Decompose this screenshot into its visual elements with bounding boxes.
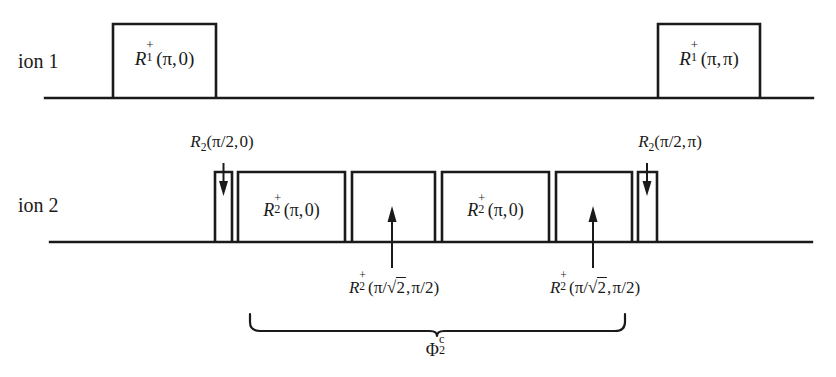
- radicand: 2: [395, 277, 406, 297]
- up-arrow-second-head: [589, 206, 598, 222]
- ann-comma: ,: [234, 132, 238, 151]
- label-comma: ,: [717, 48, 722, 69]
- phi-sub: 2: [439, 343, 445, 358]
- row-label-ion1: ion 1: [18, 50, 59, 73]
- annotation-r2-pi2-0: R2(π/2, 0): [190, 133, 254, 153]
- label-close-paren: ): [518, 200, 524, 220]
- ann-R: R: [349, 278, 359, 297]
- label-R: R: [679, 48, 691, 69]
- ann-comma: ,: [682, 132, 686, 151]
- pulse-label-r2-plus-pi-0-second: R+2(π, 0): [467, 198, 523, 219]
- annotation-r2-plus-sqrt2-first: R+2(π/√2, π/2): [349, 276, 439, 296]
- label-comma: ,: [299, 200, 304, 220]
- ann-phase-den: 2: [626, 278, 635, 297]
- ann-R: R: [638, 132, 648, 151]
- ann-sqrt: √2: [588, 279, 607, 296]
- label-R: R: [135, 48, 147, 69]
- down-arrow-right-head: [643, 181, 652, 196]
- down-arrow-left-head: [219, 181, 228, 196]
- phi-supsub: c2: [439, 338, 448, 356]
- ann-comma: ,: [607, 278, 611, 297]
- ann-supsub: +2: [560, 276, 569, 293]
- label-supsub: +1: [691, 46, 701, 65]
- ann-phase-den: 2: [425, 278, 434, 297]
- label-comma: ,: [172, 48, 177, 69]
- ann-two: 2: [673, 132, 682, 151]
- label-pi: π: [163, 48, 173, 69]
- pulse-sequence-figure: ion 1 ion 2 R+1(π, 0) R+1(π, π) R+2(π, 0…: [0, 0, 836, 377]
- phi-symbol: Φ: [426, 340, 439, 360]
- pulse-label-r1-pi-0: R+1(π, 0): [135, 46, 195, 68]
- ann-two: 2: [225, 132, 234, 151]
- label-close-paren: ): [733, 48, 739, 69]
- label-R: R: [263, 200, 274, 220]
- label-pi-1: π: [707, 48, 717, 69]
- phi-brace-graphic: [250, 314, 625, 336]
- label-comma: ,: [503, 200, 508, 220]
- ann-close-paren: ): [634, 278, 640, 297]
- row-label-ion2: ion 2: [18, 194, 59, 217]
- up-arrow-first-head: [388, 206, 397, 222]
- pulse-box-r2-plus-sqrt2-first: [352, 172, 435, 242]
- pulse-label-r1-pi-pi: R+1(π, π): [679, 46, 739, 68]
- label-supsub: +2: [478, 198, 487, 216]
- annotation-r2-pi2-pi: R2(π/2, π): [638, 133, 702, 153]
- ann-close-paren: ): [696, 132, 702, 151]
- radicand: 2: [596, 277, 607, 297]
- ann-phase: 0: [240, 132, 249, 151]
- ann-close-paren: ): [248, 132, 254, 151]
- ann-phase: π: [688, 132, 697, 151]
- ann-R: R: [550, 278, 560, 297]
- ann-R: R: [190, 132, 200, 151]
- pulse-label-r2-plus-pi-0-first: R+2(π, 0): [263, 198, 319, 219]
- label-close-paren: ): [314, 200, 320, 220]
- annotation-r2-plus-sqrt2-second: R+2(π/√2, π/2): [550, 276, 640, 296]
- label-close-paren: ): [188, 48, 194, 69]
- ann-supsub: +2: [359, 276, 368, 293]
- ann-close-paren: ): [433, 278, 439, 297]
- label-supsub: +1: [146, 46, 156, 65]
- ion2-row-graphics: [50, 172, 812, 242]
- label-R: R: [467, 200, 478, 220]
- phi-2-c-label: Φc2: [426, 338, 449, 361]
- label-supsub: +2: [274, 198, 283, 216]
- label-zero: 0: [178, 48, 188, 69]
- label-pi-2: π: [723, 48, 733, 69]
- ann-comma: ,: [406, 278, 410, 297]
- ann-sqrt: √2: [387, 279, 406, 296]
